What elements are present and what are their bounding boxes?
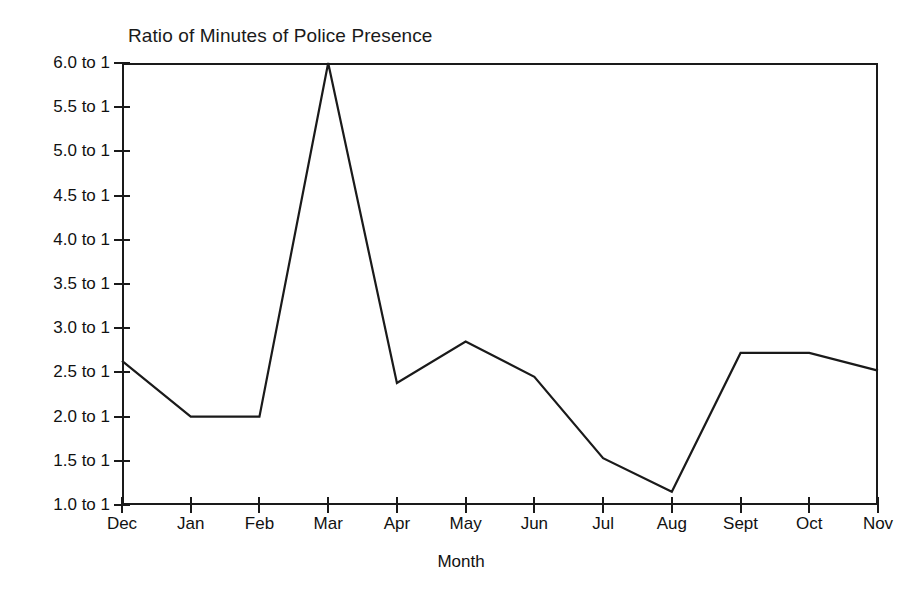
x-tick-label: May: [450, 514, 482, 534]
x-tick-mark: [258, 497, 260, 513]
x-tick-mark: [602, 497, 604, 513]
y-tick-label: 1.0 to 1: [53, 495, 110, 515]
x-tick-mark: [465, 497, 467, 513]
x-tick-label: Feb: [245, 514, 274, 534]
x-tick-label: Mar: [314, 514, 343, 534]
x-tick-label: Apr: [384, 514, 410, 534]
x-tick-label: Sept: [723, 514, 758, 534]
x-tick-label: Jan: [177, 514, 204, 534]
x-tick-mark: [396, 497, 398, 513]
chart-title: Ratio of Minutes of Police Presence: [128, 25, 433, 47]
y-axis-tick-labels: 6.0 to 15.5 to 15.0 to 14.5 to 14.0 to 1…: [0, 0, 110, 600]
y-tick-label: 4.5 to 1: [53, 186, 110, 206]
y-tick-label: 1.5 to 1: [53, 451, 110, 471]
y-tick-label: 2.5 to 1: [53, 362, 110, 382]
x-tick-mark: [740, 497, 742, 513]
y-tick-label: 4.0 to 1: [53, 230, 110, 250]
chart-figure: Ratio of Minutes of Police Presence 6.0 …: [0, 0, 922, 600]
x-tick-mark: [190, 497, 192, 513]
y-tick-label: 5.5 to 1: [53, 97, 110, 117]
x-tick-label: Oct: [796, 514, 822, 534]
x-tick-mark: [121, 497, 123, 513]
x-tick-mark: [533, 497, 535, 513]
series-line-police-presence-ratio: [122, 63, 878, 505]
x-tick-label: Jun: [521, 514, 548, 534]
x-tick-label: Dec: [107, 514, 137, 534]
y-tick-label: 3.0 to 1: [53, 318, 110, 338]
x-tick-mark: [327, 497, 329, 513]
x-tick-mark: [671, 497, 673, 513]
y-tick-label: 5.0 to 1: [53, 141, 110, 161]
y-tick-label: 2.0 to 1: [53, 407, 110, 427]
x-tick-mark: [877, 497, 879, 513]
x-axis-title: Month: [0, 552, 922, 572]
x-tick-label: Jul: [592, 514, 614, 534]
x-tick-mark: [808, 497, 810, 513]
x-tick-label: Aug: [657, 514, 687, 534]
y-tick-label: 3.5 to 1: [53, 274, 110, 294]
x-tick-label: Nov: [863, 514, 893, 534]
y-tick-label: 6.0 to 1: [53, 53, 110, 73]
plot-area: [122, 63, 878, 505]
